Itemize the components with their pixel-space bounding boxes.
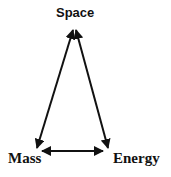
label-mass: Mass <box>8 150 41 167</box>
label-space: Space <box>56 5 94 20</box>
arrow-space-energy <box>76 30 108 148</box>
arrow-space-mass <box>37 30 73 148</box>
label-energy: Energy <box>113 150 160 167</box>
